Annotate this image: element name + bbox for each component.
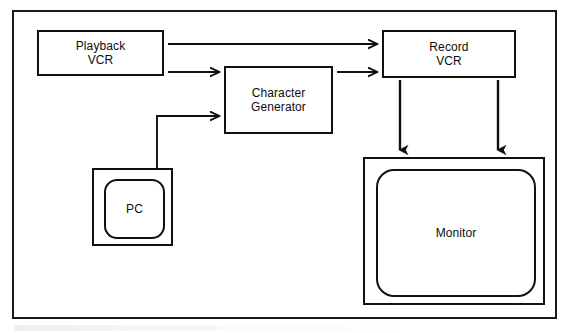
figure-canvas: Playback VCR Character Generator Record …: [0, 0, 571, 333]
node-playback-vcr[interactable]: Playback VCR: [37, 30, 164, 76]
node-monitor-label: Monitor: [436, 226, 477, 240]
connector-pc-to-chargen: [157, 116, 219, 168]
node-record-vcr[interactable]: Record VCR: [382, 30, 516, 78]
node-monitor[interactable]: Monitor: [363, 157, 545, 305]
node-monitor-screen: Monitor: [376, 169, 536, 297]
node-character-generator-label: Character Generator: [251, 86, 306, 114]
scan-artifact-strip: [14, 325, 414, 331]
node-pc-inner-bezel: PC: [104, 179, 165, 239]
node-character-generator[interactable]: Character Generator: [224, 66, 333, 134]
node-pc-label: PC: [126, 202, 143, 216]
node-playback-vcr-label: Playback VCR: [76, 39, 126, 67]
node-record-vcr-label: Record VCR: [429, 40, 468, 68]
node-pc[interactable]: PC: [92, 168, 173, 246]
